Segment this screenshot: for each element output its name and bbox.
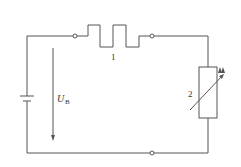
battery-icon bbox=[20, 96, 34, 101]
label-heater: 1 bbox=[111, 52, 116, 62]
wire-bottom-left bbox=[27, 101, 150, 153]
wire-top-right bbox=[154, 36, 208, 67]
label-voltage-subscript: B bbox=[65, 98, 70, 106]
terminal-bottom bbox=[150, 151, 154, 155]
arrow-head-icon bbox=[51, 135, 55, 141]
resistor-variable-arrow bbox=[190, 75, 223, 110]
wire-right-bottom bbox=[154, 118, 208, 153]
circuit-diagram: 1 2 U B bbox=[0, 0, 241, 167]
light-arrow-icon-2 bbox=[218, 67, 222, 73]
label-voltage: U bbox=[57, 93, 65, 104]
terminal-top-left bbox=[73, 34, 77, 38]
heater-element bbox=[77, 25, 150, 47]
terminal-top-right bbox=[150, 34, 154, 38]
resistor-body bbox=[199, 67, 217, 118]
label-thermistor: 2 bbox=[188, 89, 193, 99]
